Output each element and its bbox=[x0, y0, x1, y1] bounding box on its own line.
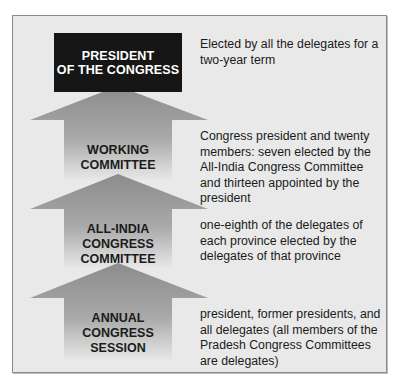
working-committee-description: Congress president and twenty members: s… bbox=[200, 129, 385, 207]
aicc-line-2: CONGRESS bbox=[64, 237, 172, 252]
aicc-description: one-eighth of the delegates of each prov… bbox=[200, 218, 385, 265]
working-committee-label: WORKING COMMITTEE bbox=[64, 143, 172, 173]
annual-session-description: president, former presidents, and all de… bbox=[200, 307, 385, 369]
president-title-line-2: OF THE CONGRESS bbox=[57, 63, 179, 77]
working-committee-line-2: COMMITTEE bbox=[64, 158, 172, 173]
president-title-line-1: PRESIDENT bbox=[57, 49, 179, 63]
annual-session-label: ANNUAL CONGRESS SESSION bbox=[64, 311, 172, 356]
aicc-label: ALL-INDIA CONGRESS COMMITTEE bbox=[64, 222, 172, 267]
aicc-line-1: ALL-INDIA bbox=[64, 222, 172, 237]
working-committee-line-1: WORKING bbox=[64, 143, 172, 158]
annual-session-line-3: SESSION bbox=[64, 341, 172, 356]
president-box: PRESIDENT OF THE CONGRESS bbox=[54, 33, 182, 92]
annual-session-line-1: ANNUAL bbox=[64, 311, 172, 326]
annual-session-line-2: CONGRESS bbox=[64, 326, 172, 341]
aicc-line-3: COMMITTEE bbox=[64, 252, 172, 267]
president-description: Elected by all the delegates for a two-y… bbox=[200, 37, 385, 68]
